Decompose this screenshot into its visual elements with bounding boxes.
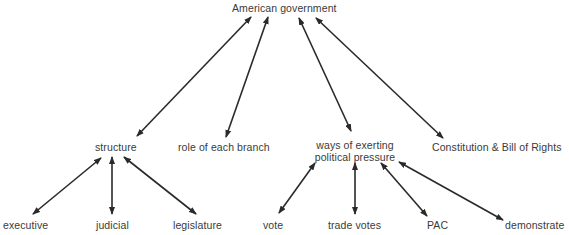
arrow-gov-pressure bbox=[299, 18, 351, 131]
node-judicial: judicial bbox=[96, 219, 129, 231]
arrow-gov-structure bbox=[137, 17, 251, 136]
arrow-structure-legislature bbox=[124, 157, 196, 214]
arrows-layer bbox=[0, 0, 569, 235]
node-demonstrate: demonstrate bbox=[505, 219, 564, 231]
concept-map: American government structure role of ea… bbox=[0, 0, 569, 235]
node-pressure-line1: ways of exerting bbox=[311, 139, 399, 151]
node-structure: structure bbox=[95, 141, 137, 153]
node-ways-of-exerting-political-pressure: ways of exerting political pressure bbox=[311, 139, 399, 163]
arrow-structure-executive bbox=[33, 158, 101, 214]
arrow-gov-constitution bbox=[316, 18, 443, 138]
node-american-government: American government bbox=[232, 2, 337, 14]
node-pressure-line2: political pressure bbox=[311, 151, 399, 163]
node-vote: vote bbox=[263, 219, 283, 231]
node-legislature: legislature bbox=[173, 219, 222, 231]
node-executive: executive bbox=[3, 219, 48, 231]
node-pac: PAC bbox=[427, 219, 448, 231]
node-constitution-bill-of-rights: Constitution & Bill of Rights bbox=[432, 141, 562, 153]
node-trade-votes: trade votes bbox=[328, 219, 381, 231]
arrow-pressure-demonstrate bbox=[399, 162, 503, 220]
arrow-pressure-vote bbox=[279, 163, 315, 213]
arrow-gov-role bbox=[226, 17, 268, 137]
node-role-of-each-branch: role of each branch bbox=[178, 141, 270, 153]
arrow-pressure-pac bbox=[381, 163, 427, 216]
